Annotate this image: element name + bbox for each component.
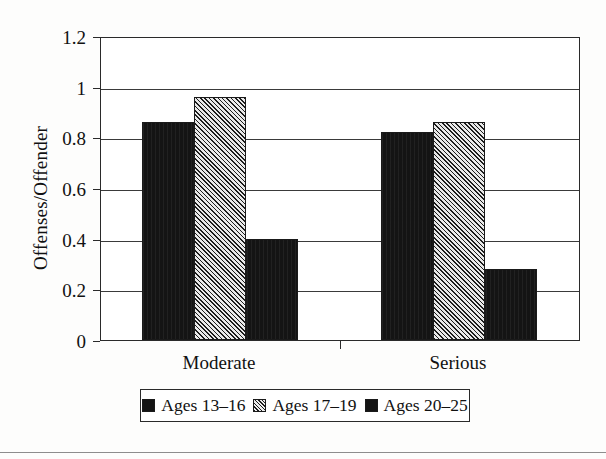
y-tick-mark [93,240,100,241]
y-tick-mark [93,341,100,342]
legend-label: Ages 13–16 [161,397,245,415]
x-category-label: Moderate [119,352,319,374]
legend-swatch-icon [365,399,378,412]
y-tick-label: 0.4 [10,230,86,249]
bar [142,122,194,340]
legend-item[interactable]: Ages 17–19 [249,397,360,415]
x-tick-mark [340,341,341,349]
y-tick-label: 1.2 [10,28,86,47]
y-tick-label: 1 [10,78,86,97]
legend-item[interactable]: Ages 13–16 [138,397,249,415]
y-tick-label: 0.8 [10,129,86,148]
gridline [101,89,579,90]
legend-label: Ages 20–25 [384,397,468,415]
plot-area [100,37,580,341]
bar [381,132,433,340]
y-tick-label: 0.6 [10,180,86,199]
y-tick-mark [93,189,100,190]
legend-swatch-icon [253,399,266,412]
bar [485,269,537,340]
bar [194,97,246,340]
x-category-label: Serious [358,352,558,374]
legend-swatch-icon [142,399,155,412]
y-tick-label: 0.2 [10,281,86,300]
bar-chart-figure: Offenses/Offender 00.20.40.60.811.2 Mode… [0,0,606,459]
y-tick-label: 0 [10,332,86,351]
y-tick-mark [93,37,100,38]
y-tick-mark [93,290,100,291]
y-tick-mark [93,138,100,139]
bar [246,239,298,340]
chart-legend: Ages 13–16Ages 17–19Ages 20–25 [140,389,470,422]
y-tick-mark [93,88,100,89]
page-rule-divider [0,452,606,453]
legend-item[interactable]: Ages 20–25 [361,397,472,415]
bar [433,122,485,340]
legend-label: Ages 17–19 [272,397,356,415]
